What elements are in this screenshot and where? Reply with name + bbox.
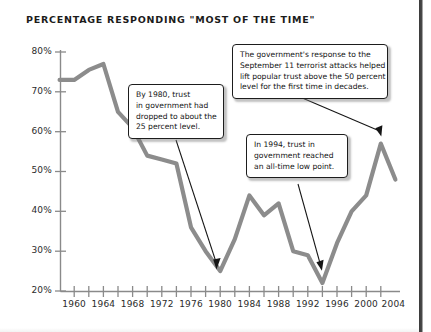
annotation-callout-1994: In 1994, trust in government reached an … [246, 134, 348, 178]
y-tick-label-20: 20% [18, 285, 52, 295]
arrow-line-sep11 [300, 97, 380, 131]
annotation-callout-1980: By 1980, trust in government had dropped… [128, 84, 224, 139]
y-tick-label-30: 30% [18, 245, 52, 255]
y-tick-label-70: 70% [18, 86, 52, 96]
y-tick-label-50: 50% [18, 165, 52, 175]
annotation-callout-1980-line-4: 25 percent level. [136, 122, 217, 133]
chart-figure: PERCENTAGE RESPONDING "MOST OF THE TIME" [0, 0, 431, 332]
y-tick-label-80: 80% [18, 46, 52, 56]
y-tick-label-60: 60% [18, 126, 52, 136]
annotation-callout-1994-line-3: an all-time low point. [254, 162, 341, 173]
annotation-callout-1994-line-2: government reached [254, 151, 341, 162]
annotation-callout-1994-line-1: In 1994, trust in [254, 140, 341, 151]
annotation-callout-1980-line-1: By 1980, trust [136, 90, 217, 101]
annotation-callout-september-11-line-3: lift popular trust above the 50 percent [240, 72, 381, 83]
annotation-callout-september-11-line-4: level for the first time in decades. [240, 82, 381, 93]
annotation-callout-september-11-line-2: September 11 terrorist attacks helped [240, 61, 381, 72]
y-tick-label-40: 40% [18, 205, 52, 215]
arrow-line-1980 [176, 140, 217, 264]
annotation-callout-1980-line-3: dropped to about the [136, 112, 217, 123]
annotation-callout-september-11: The government's response to the Septemb… [232, 44, 388, 99]
x-tick-label-2004: 2004 [373, 299, 413, 309]
arrow-head-sep11 [375, 125, 382, 136]
annotation-callout-september-11-line-1: The government's response to the [240, 50, 381, 61]
annotation-callout-1980-line-2: in government had [136, 101, 217, 112]
